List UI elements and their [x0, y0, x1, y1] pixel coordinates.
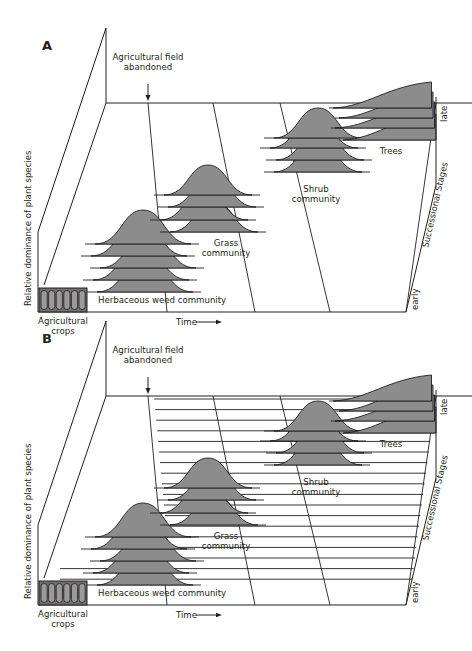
trees-label: Trees — [379, 439, 403, 449]
crop-plant — [49, 584, 55, 603]
herbaceous-community-label: Herbaceous weed community — [98, 295, 226, 305]
community-grass — [150, 165, 266, 232]
succession-figure: AAgricultural fieldabandonedHerbaceous w… — [0, 0, 472, 651]
shrub-community-label: Shrubcommunity — [292, 477, 340, 497]
crop-plant — [41, 584, 47, 603]
agricultural-crops-label: Agriculturalcrops — [38, 609, 88, 629]
floor-left-edge — [44, 396, 106, 578]
agricultural-crops-icon — [39, 288, 87, 312]
species-abundance-curve — [333, 82, 432, 108]
crop-plant — [79, 584, 85, 603]
right-arrow-icon — [216, 613, 222, 617]
trees-label: Trees — [379, 146, 403, 156]
early-label: early — [410, 581, 420, 603]
right-arrow-icon — [216, 320, 222, 324]
grass-community-label: Grasscommunity — [202, 531, 250, 551]
time-axis-label: Time — [175, 317, 197, 327]
late-label: late — [439, 399, 449, 415]
field-abandoned-label: Agricultural fieldabandoned — [112, 345, 183, 365]
herbaceous-community-label: Herbaceous weed community — [98, 588, 226, 598]
crop-plant — [56, 291, 62, 310]
successional-stages-label: Successional Stages — [420, 454, 450, 542]
crop-plant — [56, 584, 62, 603]
early-label: early — [410, 288, 420, 310]
species-abundance-curve — [333, 375, 432, 401]
crop-plant — [71, 291, 77, 310]
crop-plant — [71, 584, 77, 603]
panel-a: AAgricultural fieldabandonedHerbaceous w… — [23, 28, 472, 336]
crop-plant — [64, 291, 70, 310]
agricultural-crops-icon — [39, 581, 87, 605]
crop-plant — [41, 291, 47, 310]
successional-stages-label: Successional Stages — [420, 161, 450, 249]
species-abundance-curve — [164, 165, 252, 195]
community-herbaceous — [81, 210, 204, 292]
community-grass — [150, 458, 266, 525]
down-arrow-icon — [146, 388, 151, 394]
crop-plant — [79, 291, 85, 310]
panel-letter: A — [42, 38, 52, 53]
grass-community-label: Grasscommunity — [202, 238, 250, 258]
crop-plant — [49, 291, 55, 310]
late-label: late — [439, 106, 449, 122]
shrub-community-label: Shrubcommunity — [292, 184, 340, 204]
field-abandoned-label: Agricultural fieldabandoned — [112, 52, 183, 72]
crop-plant — [64, 584, 70, 603]
y-axis-label: Relative dominance of plant species — [23, 150, 33, 306]
panel-letter: B — [42, 331, 52, 346]
y-axis-label: Relative dominance of plant species — [23, 443, 33, 599]
time-axis-label: Time — [175, 610, 197, 620]
panel-b: BAgricultural fieldabandonedHerbaceous w… — [23, 321, 472, 629]
down-arrow-icon — [146, 95, 151, 101]
floor-left-edge — [44, 103, 106, 285]
